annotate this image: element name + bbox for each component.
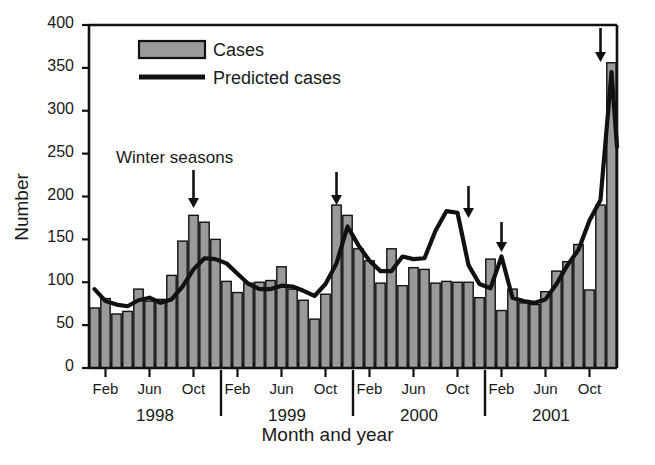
bar (354, 249, 363, 368)
bar (189, 215, 198, 368)
bar (167, 275, 176, 368)
x-tick-label: Oct (436, 380, 480, 397)
y-tick-label: 250 (30, 143, 74, 161)
y-tick-label: 150 (30, 228, 74, 246)
bar (299, 300, 308, 368)
bar (310, 319, 319, 368)
arrow-winter-1999 (331, 172, 342, 205)
y-tick-label: 100 (30, 271, 74, 289)
bar (145, 301, 154, 368)
bar (442, 281, 451, 368)
bar (244, 283, 253, 368)
bar (123, 311, 132, 368)
x-tick-label: Oct (172, 380, 216, 397)
x-tick-label: Oct (568, 380, 612, 397)
bar (222, 281, 231, 368)
bar (90, 308, 99, 368)
bar (101, 299, 110, 368)
bar (475, 298, 484, 368)
arrow-winter-2000 (463, 186, 474, 218)
bar (464, 282, 473, 368)
year-label: 1999 (247, 406, 327, 426)
bar (266, 281, 275, 368)
y-tick-label: 50 (30, 314, 74, 332)
bar (574, 245, 583, 368)
bar (288, 289, 297, 368)
bar (376, 283, 385, 368)
x-tick-label: Jun (260, 380, 304, 397)
bar (508, 289, 517, 368)
bar (431, 283, 440, 368)
bar (453, 282, 462, 368)
bar (563, 262, 572, 368)
bar (233, 293, 242, 368)
x-tick-label: Oct (304, 380, 348, 397)
figure: Number Month and year 400350300250200150… (0, 0, 655, 465)
bar (530, 305, 539, 368)
bar (497, 311, 506, 368)
legend-label-cases: Cases (213, 40, 264, 61)
x-tick-label: Jun (128, 380, 172, 397)
bar (277, 267, 286, 368)
x-tick-label: Jun (524, 380, 568, 397)
arrow-winter-2001-late (595, 28, 606, 62)
bar (409, 268, 418, 368)
arrow-winter-1998 (188, 170, 199, 208)
bar (200, 222, 209, 368)
bar (420, 269, 429, 368)
y-tick-label: 300 (30, 100, 74, 118)
x-tick-label: Feb (84, 380, 128, 397)
bar-series (90, 63, 616, 368)
year-label: 2000 (379, 406, 459, 426)
bar (156, 299, 165, 368)
y-tick-label: 350 (30, 57, 74, 75)
bar (585, 290, 594, 368)
y-tick-label: 200 (30, 186, 74, 204)
bar (255, 282, 264, 368)
x-axis-title: Month and year (0, 424, 655, 446)
bar (332, 205, 341, 368)
x-tick-label: Feb (348, 380, 392, 397)
arrow-winter-2001-early (496, 222, 507, 252)
year-label: 2001 (511, 406, 591, 426)
bar (112, 314, 121, 368)
bar (398, 286, 407, 368)
bar (596, 205, 605, 368)
y-tick-label: 400 (30, 14, 74, 32)
year-label: 1998 (115, 406, 195, 426)
legend (139, 41, 205, 77)
x-tick-label: Feb (480, 380, 524, 397)
y-tick-label: 0 (30, 357, 74, 375)
bar (365, 261, 374, 368)
legend-swatch-cases (139, 41, 205, 58)
bar (321, 294, 330, 368)
x-tick-label: Feb (216, 380, 260, 397)
legend-label-predicted: Predicted cases (213, 68, 341, 89)
x-tick-label: Jun (392, 380, 436, 397)
bar (541, 292, 550, 368)
bar (178, 241, 187, 368)
bar (519, 303, 528, 368)
annotation-winter-seasons: Winter seasons (116, 148, 233, 168)
